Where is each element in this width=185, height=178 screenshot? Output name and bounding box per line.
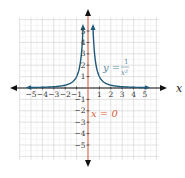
x-tick-label: 4 [131, 90, 136, 99]
y-tick-label: 2 [81, 61, 86, 70]
x-tick-label: 5 [143, 90, 148, 99]
curve-label-denominator: x² [121, 69, 128, 77]
y-tick-label: 1 [81, 72, 86, 81]
y-tick-label: −4 [74, 129, 85, 138]
y-tick-label: 4 [81, 38, 86, 47]
x-tick-label: 1 [97, 90, 102, 99]
x-axis-right-arrow-icon [160, 85, 167, 91]
y-tick-label: −5 [74, 141, 85, 150]
y-tick-label: −1 [74, 95, 85, 104]
curve-label-lhs: y = [102, 62, 120, 73]
x-tick-label: 3 [120, 90, 125, 99]
curve-label-numerator: 1 [124, 58, 128, 66]
asymptote-label: x = 0 [91, 108, 118, 119]
curve-equation-label: y = 1 x² [102, 58, 129, 77]
x-tick-label: 2 [108, 90, 113, 99]
y-tick-label: 3 [81, 49, 86, 58]
y-tick-label: −2 [74, 106, 85, 115]
x-axis-label: x [176, 82, 183, 95]
x-tick-label: −4 [37, 90, 48, 99]
function-graph: −5−4−3−2−11234554321−1−2−3−4−5 x y = 1 x… [0, 0, 185, 178]
grid-lines [20, 17, 159, 160]
x-tick-label: −5 [25, 90, 36, 99]
x-tick-label: −2 [60, 90, 71, 99]
y-tick-label: 5 [81, 27, 86, 36]
y-axis-up-arrow-icon [85, 9, 91, 16]
curve-arrow-up-right-icon [91, 24, 96, 30]
y-tick-label: −3 [74, 118, 85, 127]
x-tick-label: −3 [48, 90, 59, 99]
x-axis-left-arrow-icon [10, 85, 17, 91]
y-axis-down-arrow-icon [85, 160, 91, 167]
